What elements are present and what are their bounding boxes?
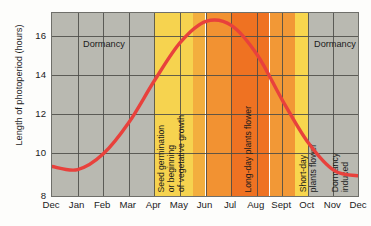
plot-area: Dormancy Dormancy Seed germination or be…	[51, 12, 359, 197]
y-tick-14: 14	[20, 69, 46, 80]
y-tick-10: 10	[20, 147, 46, 158]
x-tick-dec-end: Dec	[338, 199, 371, 210]
curve-path	[52, 20, 359, 176]
x-axis-tick-labels: Dec Jan Feb Mar Apr May Jun Jul Aug Sept…	[51, 199, 359, 219]
y-tick-16: 16	[20, 30, 46, 41]
photoperiod-chart: Length of photoperiod (hours) 16 14 12 1…	[0, 0, 371, 226]
y-axis-tick-labels: 16 14 12 10 8	[18, 0, 46, 226]
photoperiod-curve	[52, 13, 359, 197]
y-tick-12: 12	[20, 108, 46, 119]
